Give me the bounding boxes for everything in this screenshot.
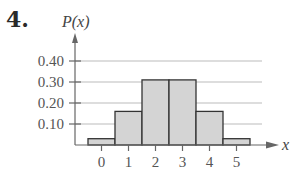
x-tick-label: 0 xyxy=(98,154,106,170)
y-axis-label: P(x) xyxy=(61,13,90,31)
y-tick-label: 0.20 xyxy=(38,95,64,111)
bar xyxy=(88,139,115,145)
bars xyxy=(88,80,250,145)
x-tick-label: 1 xyxy=(125,154,133,170)
bar xyxy=(196,111,223,145)
x-axis-arrow-icon xyxy=(266,142,279,149)
y-axis-arrow-icon xyxy=(72,33,78,43)
x-tick-label: 2 xyxy=(152,154,160,170)
x-tick-label: 5 xyxy=(233,154,241,170)
y-tick-label: 0.40 xyxy=(38,53,64,69)
x-axis-ticks: 012345 xyxy=(98,145,241,170)
bar xyxy=(115,111,142,145)
bar xyxy=(142,80,169,145)
x-tick-label: 4 xyxy=(206,154,214,170)
y-tick-label: 0.30 xyxy=(38,74,64,90)
y-tick-label: 0.10 xyxy=(38,116,64,132)
bar xyxy=(223,139,250,145)
probability-histogram: 4. P(x) 0.100.200.300.40 012345 x xyxy=(0,0,299,180)
x-tick-label: 3 xyxy=(179,154,187,170)
x-axis-label: x xyxy=(281,136,289,153)
bar xyxy=(169,80,196,145)
problem-number: 4. xyxy=(6,6,29,32)
